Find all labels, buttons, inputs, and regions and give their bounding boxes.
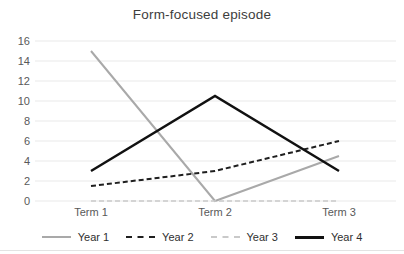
legend-swatch-dashed-line [126,236,155,238]
chart-container: Form-focused episode 0246810121416Term 1… [0,0,404,254]
bottom-divider [0,250,404,251]
legend: Year 1Year 2Year 3Year 4 [0,231,404,243]
legend-swatch-dashed-line [211,236,240,238]
x-category-label: Term 1 [74,206,108,218]
legend-swatch-solid-line [42,236,71,238]
y-tick-label: 0 [24,195,30,207]
y-tick-label: 12 [18,75,30,87]
series-line-year-4 [91,96,339,171]
plot-area: 0246810121416Term 1Term 2Term 3 [0,0,404,254]
legend-label: Year 2 [162,231,193,243]
series-line-year-1 [91,51,339,201]
y-tick-label: 6 [24,135,30,147]
x-category-label: Term 2 [198,206,232,218]
y-tick-label: 10 [18,95,30,107]
legend-label: Year 3 [247,231,278,243]
legend-swatch-solid-line [295,236,324,239]
legend-label: Year 1 [78,231,109,243]
y-tick-label: 4 [24,155,30,167]
y-tick-label: 16 [18,35,30,47]
y-tick-label: 8 [24,115,30,127]
y-tick-label: 14 [18,55,30,67]
legend-item-year-1: Year 1 [42,231,109,243]
y-tick-label: 2 [24,175,30,187]
legend-item-year-4: Year 4 [295,231,362,243]
legend-item-year-3: Year 3 [211,231,278,243]
legend-label: Year 4 [331,231,362,243]
legend-item-year-2: Year 2 [126,231,193,243]
x-category-label: Term 3 [322,206,356,218]
